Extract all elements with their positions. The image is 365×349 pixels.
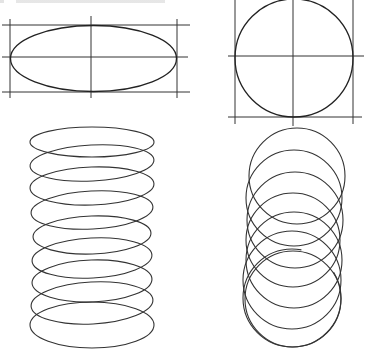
circle-panel [228,0,364,126]
coil-loop [246,150,342,246]
drawing-canvas [0,0,365,349]
coil-loop [246,193,340,287]
spring-loop [31,235,153,281]
spring-loop [30,279,154,327]
ellipse [11,26,177,92]
spring-loop [32,214,151,256]
spring-loop [29,165,154,207]
elliptical-spring [29,127,155,348]
ellipse-panel [2,16,190,98]
spring-loop [30,302,154,348]
circular-coil [243,128,345,347]
spring-loop [31,258,152,304]
coil-loop [247,172,343,268]
spring-loop [30,188,154,232]
coil-loop [249,128,345,224]
spring-loop [29,142,155,184]
circle [235,0,353,117]
